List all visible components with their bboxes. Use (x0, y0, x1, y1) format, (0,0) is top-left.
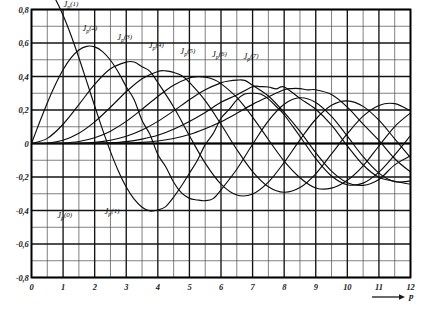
curve-label-J_p(4): Jp(4) (149, 41, 164, 51)
chart-canvas (0, 0, 424, 309)
y-tick-label: 0,4 (18, 72, 28, 82)
y-tick-label: -0,6 (16, 239, 29, 249)
curve-label-J_p(2): Jp(2) (82, 24, 97, 34)
curve-label-J_p(7): Jp(7) (244, 52, 259, 62)
label-argument: (2) (89, 24, 97, 32)
y-tick-label: 0,8 (18, 5, 28, 15)
x-tick-label: 1 (61, 282, 65, 292)
curve-label-J_p(1): Jp(1) (105, 207, 120, 217)
label-argument: (7) (250, 52, 258, 60)
y-tick-label: -0,2 (16, 172, 29, 182)
y-tick-label: -0,8 (16, 273, 29, 283)
x-tick-label: 8 (282, 282, 286, 292)
label-argument: (4) (156, 41, 164, 49)
y-tick-label: 0,2 (18, 105, 28, 115)
label-argument: (0) (64, 211, 72, 219)
label-argument: (1) (70, 0, 78, 8)
curve-label-J_p(6): Jp(6) (212, 50, 227, 60)
y-tick-label: 0 (24, 139, 28, 149)
curve-label-J_p(3): Jp(3) (117, 33, 132, 43)
label-argument: (1) (111, 207, 119, 215)
curve-label-J_p(5): Jp(5) (180, 47, 195, 57)
label-argument: (3) (124, 33, 132, 41)
x-tick-label: 3 (124, 282, 128, 292)
x-tick-label: 5 (187, 282, 191, 292)
x-tick-label: 2 (93, 282, 97, 292)
label-argument: (6) (219, 50, 227, 58)
x-axis-name: p (409, 291, 414, 301)
x-tick-label: 4 (156, 282, 160, 292)
x-tick-label: 12 (406, 282, 414, 292)
x-tick-label: 7 (251, 282, 255, 292)
x-tick-label: 9 (314, 282, 318, 292)
x-tick-label: 0 (29, 282, 33, 292)
bessel-function-chart: 0,80,60,40,20-0,2-0,4-0,6-0,8 0123456789… (0, 0, 424, 309)
curve-label-J_p(1): Jp(1) (63, 0, 78, 10)
y-tick-label: 0,6 (18, 38, 28, 48)
x-tick-label: 11 (375, 282, 383, 292)
label-argument: (5) (187, 47, 195, 55)
x-tick-label: 10 (343, 282, 351, 292)
curve-label-J_p(0): Jp(0) (57, 211, 72, 221)
x-axis-arrow (372, 294, 405, 300)
y-tick-label: -0,4 (16, 206, 29, 216)
x-tick-label: 6 (219, 282, 223, 292)
